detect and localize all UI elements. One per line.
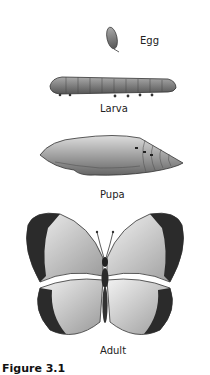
stage-label-larva: Larva [100, 103, 128, 114]
figure-caption: Figure 3.1 [2, 362, 65, 375]
larva-illustration [50, 77, 176, 97]
stage-label-egg: Egg [140, 35, 159, 46]
pupa-illustration [40, 136, 183, 176]
stage-label-adult: Adult [100, 345, 126, 356]
adult-butterfly-illustration [27, 213, 184, 334]
stage-label-pupa: Pupa [100, 189, 125, 200]
egg-illustration [105, 26, 119, 52]
